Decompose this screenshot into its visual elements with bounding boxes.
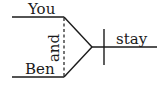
sentence-diagram: You Ben and stay (0, 0, 165, 88)
conjunction-word: and (45, 34, 63, 63)
predicate-verb: stay (116, 30, 148, 48)
branch-diagonal-bottom (64, 47, 92, 77)
branch-diagonal-top (64, 17, 92, 47)
subject-word-top: You (27, 0, 56, 18)
